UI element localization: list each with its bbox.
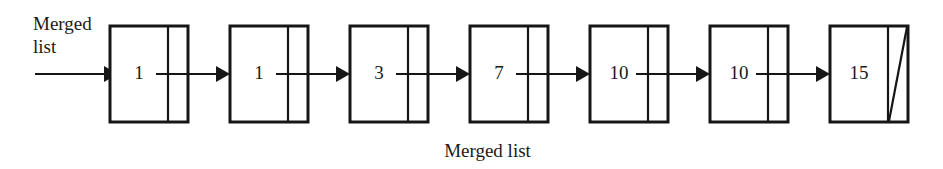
- node-value: 15: [850, 62, 869, 83]
- node-value: 1: [254, 62, 264, 83]
- node-value: 1: [134, 62, 144, 83]
- node-value: 7: [494, 62, 504, 83]
- node-link-arrowhead: [456, 66, 470, 82]
- node-value: 10: [730, 62, 749, 83]
- node-link-arrowhead: [576, 66, 590, 82]
- node-link-arrowhead: [696, 66, 710, 82]
- node-value: 10: [610, 62, 629, 83]
- node-link-arrowhead: [816, 66, 830, 82]
- node-link-arrowhead: [216, 66, 230, 82]
- diagram-caption: Merged list: [16, 140, 943, 162]
- linked-list-diagram: Merged list 1137101015 Merged list: [0, 0, 943, 169]
- node-value: 3: [374, 62, 384, 83]
- list-node: [830, 26, 908, 122]
- entry-arrow: [35, 66, 118, 82]
- node-link-arrowhead: [336, 66, 350, 82]
